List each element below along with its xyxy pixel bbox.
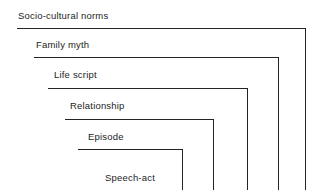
level-label-episode: Episode (88, 131, 124, 142)
level-label-socio-cultural-norms: Socio-cultural norms (18, 10, 108, 21)
level-top-line-family-myth (34, 57, 279, 58)
level-top-line-life-script (48, 88, 248, 89)
level-right-line-family-myth (278, 57, 279, 190)
level-top-line-episode (78, 149, 183, 150)
level-label-speech-act: Speech-act (105, 172, 155, 183)
level-top-line-socio-cultural-norms (17, 28, 306, 29)
level-label-relationship: Relationship (70, 100, 125, 111)
level-right-line-life-script (247, 88, 248, 190)
nested-context-levels-diagram: Socio-cultural norms Family myth Life sc… (0, 0, 324, 190)
level-top-line-relationship (65, 119, 214, 120)
level-right-line-socio-cultural-norms (305, 28, 306, 190)
level-right-line-episode (182, 149, 183, 190)
level-label-life-script: Life script (54, 69, 97, 80)
level-label-family-myth: Family myth (36, 39, 89, 50)
level-right-line-relationship (213, 119, 214, 190)
